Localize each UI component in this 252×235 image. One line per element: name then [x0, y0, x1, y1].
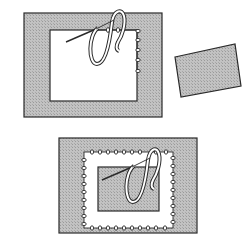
- fabric-patch: [175, 44, 241, 97]
- embroidery-diagram: [0, 0, 252, 235]
- step1-frame: [24, 13, 162, 117]
